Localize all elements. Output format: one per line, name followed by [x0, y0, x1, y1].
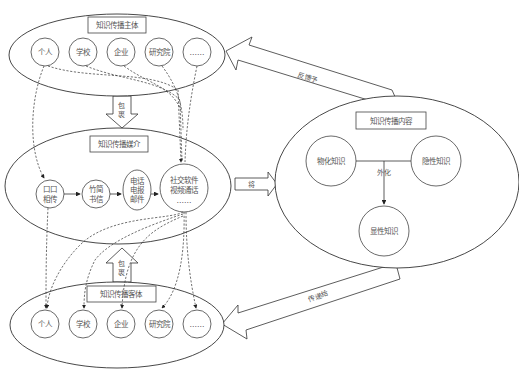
subject-node-enterprise-label: 企业 — [114, 47, 129, 57]
arrow-medium-to-content-label: 将 — [248, 180, 255, 189]
medium-node-social-video-line2: 视频通话 — [170, 185, 199, 195]
medium-title: 知识传播媒介 — [98, 139, 141, 149]
object-node-school-label: 学校 — [76, 319, 91, 329]
subject-title: 知识传播主体 — [96, 20, 139, 30]
knowledge-dissemination-diagram: 包 裹 包 裹 将 反馈予 传递给 知识传播主体 个人 学校 企业 研究院 ……… — [0, 0, 519, 379]
subject-node-school-label: 学校 — [76, 47, 91, 57]
medium-node-word-of-mouth-line1: 口口 — [43, 185, 57, 194]
medium-node-telecom-line1: 电话 — [130, 176, 145, 186]
medium-node-bamboo-letters-line2: 书信 — [89, 194, 104, 204]
arrow-content-to-subject — [226, 37, 396, 104]
content-node-materialized-label: 物化知识 — [317, 156, 346, 166]
subject-node-institute-label: 研究院 — [149, 47, 171, 57]
medium-node-social-video-line3: …… — [177, 196, 192, 205]
arrow-object-to-medium-char2: 裹 — [118, 268, 125, 277]
content-node-explicit-label: 显性知识 — [370, 226, 399, 236]
arrow-subject-to-medium-char2: 裹 — [118, 110, 125, 119]
object-node-etc-label: …… — [190, 320, 205, 329]
medium-node-social-video-line1: 社交软件 — [170, 175, 199, 185]
arrow-medium-to-content — [235, 172, 277, 196]
medium-node-bamboo-letters-line1: 竹简 — [89, 184, 103, 194]
medium-node-telecom-line2: 电报 — [130, 185, 145, 195]
subject-node-etc-label: …… — [190, 48, 205, 57]
object-title: 知识传播客体 — [100, 289, 143, 299]
medium-node-telecom-line3: 邮件 — [130, 194, 145, 204]
object-node-individual-label: 个人 — [38, 320, 53, 329]
medium-node-word-of-mouth-line2: 相传 — [43, 194, 58, 204]
object-node-institute-label: 研究院 — [149, 319, 171, 329]
arrow-subject-to-medium-char1: 包 — [118, 101, 125, 110]
object-node-enterprise-label: 企业 — [114, 319, 129, 329]
arrow-object-to-medium-char1: 包 — [118, 259, 125, 268]
subject-node-individual-label: 个人 — [38, 48, 53, 57]
content-title: 知识传播内容 — [370, 116, 413, 126]
content-externalize-label: 外化 — [377, 168, 391, 177]
content-node-tacit-label: 隐性知识 — [422, 156, 451, 166]
